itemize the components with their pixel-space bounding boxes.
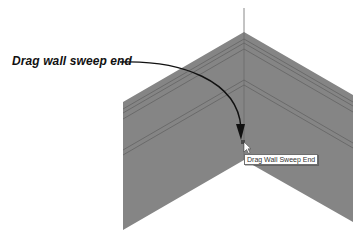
drawing-viewport[interactable]: Drag wall sweep end Drag Wall Sweep End <box>0 0 364 239</box>
tooltip: Drag Wall Sweep End <box>244 154 318 165</box>
wall-3d-view <box>0 0 364 239</box>
wall-face[interactable] <box>123 32 353 230</box>
callout-label: Drag wall sweep end <box>12 54 132 68</box>
